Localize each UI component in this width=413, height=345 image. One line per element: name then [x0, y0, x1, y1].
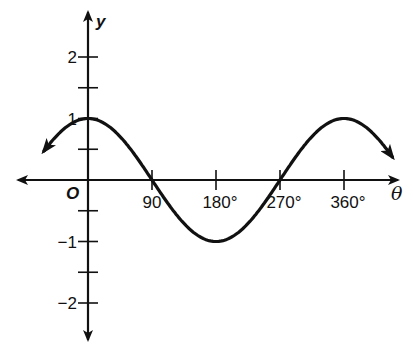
curve-left-arrow	[44, 147, 47, 151]
x-tick-label: 90	[143, 193, 162, 212]
origin-label: O	[66, 184, 79, 203]
y-tick-label: 2	[68, 48, 77, 67]
y-tick-label: −2	[58, 294, 77, 313]
x-axis-ticks: 90180°270°360°	[143, 170, 366, 212]
x-axis-label: θ	[391, 182, 403, 204]
y-tick-label: −1	[58, 233, 77, 252]
y-axis-label: y	[95, 12, 107, 31]
x-tick-label: 270°	[266, 193, 301, 212]
x-tick-label: 180°	[202, 193, 237, 212]
x-tick-label: 360°	[330, 193, 365, 212]
cosine-graph: 90180°270°360° −2−112 θ y O	[0, 0, 413, 345]
